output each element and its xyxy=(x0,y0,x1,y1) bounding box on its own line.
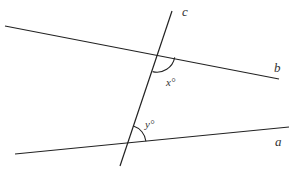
label-a: a xyxy=(275,134,282,149)
angle-x-label: x° xyxy=(165,76,176,88)
diagram-canvas: c b a x° y° xyxy=(0,0,292,172)
line-a xyxy=(15,127,289,154)
line-c xyxy=(120,11,172,166)
line-b xyxy=(5,26,279,79)
angle-y-label: y° xyxy=(144,118,155,130)
label-c: c xyxy=(182,4,188,19)
diagram-svg: c b a x° y° xyxy=(0,0,292,172)
label-b: b xyxy=(274,60,281,75)
